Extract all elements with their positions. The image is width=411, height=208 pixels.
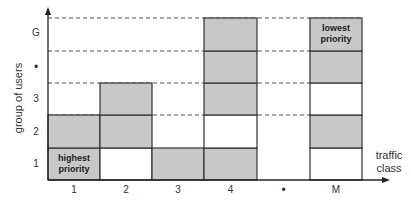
cell-M-1	[310, 148, 362, 180]
x-tick-4: 4	[204, 184, 257, 195]
highest-priority-line1: highest	[48, 153, 100, 164]
y-tick-G: G	[30, 27, 42, 38]
lowest-priority-label: lowest priority	[310, 23, 362, 45]
cell-M-dot	[310, 51, 362, 83]
x-axis-title-line1: traffic	[368, 149, 410, 161]
highest-priority-line2: priority	[48, 164, 100, 175]
y-tick-dot: •	[30, 60, 42, 74]
cell-3-1	[152, 148, 204, 180]
x-axis-title-line2: class	[368, 162, 410, 174]
cell-4-G	[204, 18, 257, 51]
cell-M-3	[310, 83, 362, 115]
x-axis-arrow-icon	[382, 177, 390, 183]
cell-2-2	[100, 115, 152, 148]
cell-4-2	[204, 115, 257, 148]
y-tick-3: 3	[30, 93, 42, 104]
x-tick-dot: •	[257, 183, 310, 197]
cell-2-3	[100, 83, 152, 115]
x-tick-1: 1	[48, 184, 100, 195]
cell-1-2	[48, 115, 100, 148]
y-tick-1: 1	[30, 158, 42, 169]
lowest-priority-line2: priority	[310, 34, 362, 45]
y-axis-title: group of users	[12, 53, 24, 143]
cell-M-2	[310, 115, 362, 148]
priority-grid-diagram: group of users 1 2 3 • G 1 2 3 4 • M tra…	[0, 0, 411, 208]
x-tick-M: M	[310, 184, 362, 195]
cell-4-3	[204, 83, 257, 115]
cell-4-dot	[204, 51, 257, 83]
cell-4-1	[204, 148, 257, 180]
highest-priority-label: highest priority	[48, 153, 100, 175]
x-tick-2: 2	[100, 184, 152, 195]
cell-2-1	[100, 148, 152, 180]
x-tick-3: 3	[152, 184, 204, 195]
y-axis-arrow-icon	[45, 7, 51, 15]
y-tick-2: 2	[30, 126, 42, 137]
lowest-priority-line1: lowest	[310, 23, 362, 34]
